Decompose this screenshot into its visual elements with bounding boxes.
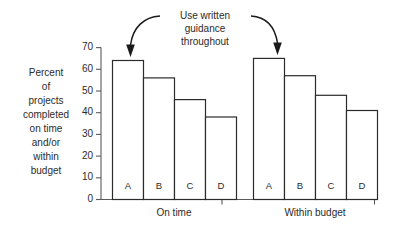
y-axis-title-line-5: and/or [32,137,61,148]
y-axis-title-line-6: within [32,151,59,162]
bar-within-budget-a [254,58,285,199]
bar-label-on-time-a: A [125,180,132,191]
bar-label-within-budget-d: D [359,180,366,191]
bar-label-within-budget-b: B [297,180,303,191]
y-tick-label-30: 30 [82,128,94,139]
y-axis-title-line-4: on time [30,123,63,134]
bar-label-on-time-d: D [218,180,225,191]
annotation-arrow-left-icon [126,16,160,57]
bar-label-within-budget-c: C [328,180,335,191]
y-tick-label-20: 20 [82,150,94,161]
y-axis-title-line-1: of [42,81,51,92]
annotation-arrow-right-icon [251,16,282,55]
y-tick-label-40: 40 [82,106,94,117]
bar-chart: 0 10 20 30 40 50 60 70 Percent of projec… [0,0,393,233]
group-label-on-time: On time [156,207,191,218]
y-axis-title-line-3: completed [23,109,69,120]
y-tick-label-60: 60 [82,63,94,74]
y-tick-label-70: 70 [82,41,94,52]
y-axis-title-line-7: budget [31,165,62,176]
y-tick-label-10: 10 [82,171,94,182]
annotation-line-2: throughout [181,36,229,47]
group-label-within-budget: Within budget [284,207,345,218]
bar-on-time-a [113,61,144,200]
annotation-line-0: Use written [180,10,230,21]
y-axis-title-line-2: projects [28,95,63,106]
bar-label-on-time-b: B [156,180,162,191]
y-tick-label-50: 50 [82,85,94,96]
y-tick-label-0: 0 [87,193,93,204]
bar-label-on-time-c: C [187,180,194,191]
chart-canvas: 0 10 20 30 40 50 60 70 Percent of projec… [0,0,393,233]
annotation-line-1: guidance [185,23,226,34]
bar-label-within-budget-a: A [266,180,273,191]
y-axis-title-line-0: Percent [29,67,64,78]
